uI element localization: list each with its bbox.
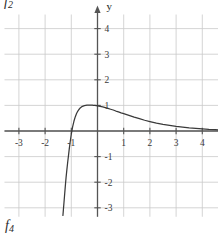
y-tick-label: 2: [105, 75, 110, 85]
plot-area: -3-2-11234 4321-1-2-3 x y: [0, 0, 218, 239]
x-tick-label: -1: [67, 138, 75, 148]
y-tick-label: 4: [105, 24, 110, 34]
y-tick-label: -3: [105, 203, 113, 213]
y-axis-tick-labels: 4321-1-2-3: [105, 24, 113, 213]
x-tick-label: -3: [15, 138, 23, 148]
y-tick-label: -1: [105, 152, 113, 162]
x-tick-label: 4: [200, 138, 205, 148]
x-tick-label: 3: [174, 138, 179, 148]
x-tick-label: -2: [41, 138, 49, 148]
x-tick-label: 2: [148, 138, 153, 148]
y-axis-arrowhead: [94, 6, 100, 14]
y-tick-label: -2: [105, 178, 113, 188]
function-graph-figure: f2 f4 -3-2-11234 4321-1-2-3 x y: [0, 0, 218, 239]
x-axis-tick-labels: -3-2-11234: [15, 138, 205, 148]
function-curve: [63, 105, 218, 215]
x-tick-label: 1: [121, 138, 126, 148]
y-tick-label: 3: [105, 50, 110, 60]
y-axis-label: y: [107, 0, 113, 12]
